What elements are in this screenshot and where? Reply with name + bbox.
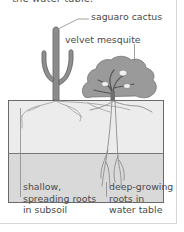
label-shallow-line-1: shallow, — [23, 181, 96, 193]
saguaro-leader — [58, 19, 89, 29]
label-velvet-mesquite: velvet mesquite — [65, 34, 141, 46]
label-deep-line-1: deep-growing — [109, 181, 173, 193]
velvet-mesquite-illustration — [82, 56, 156, 100]
label-saguaro-cactus: saguaro cactus — [91, 11, 162, 23]
label-deep-roots: deep-growing roots in water table — [109, 181, 173, 216]
label-shallow-line-2: spreading roots — [23, 193, 96, 205]
label-deep-line-2: roots in — [109, 193, 173, 205]
label-deep-line-3: water table — [109, 204, 173, 216]
label-shallow-line-3: in subsoil — [23, 204, 96, 216]
label-shallow-roots: shallow, spreading roots in subsoil — [23, 181, 96, 216]
